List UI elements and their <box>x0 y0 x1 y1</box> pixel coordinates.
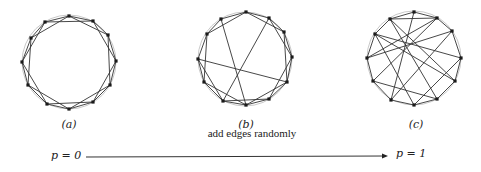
graph-edge <box>93 61 116 102</box>
panel-label-a: (a) <box>61 118 76 131</box>
graph-node <box>282 30 285 33</box>
graph-edge <box>45 21 93 22</box>
probability-end-label: p = 1 <box>396 147 426 160</box>
graph-node <box>244 103 247 106</box>
graph-panel-c <box>365 10 462 106</box>
graph-node <box>67 14 70 17</box>
graph-edge <box>93 21 116 61</box>
graph-node <box>371 79 374 82</box>
graph-node <box>26 83 29 86</box>
graph-edge <box>22 62 28 85</box>
graph-node <box>290 55 293 58</box>
guide-circle <box>367 11 461 105</box>
graph-node <box>67 107 70 110</box>
graph-edge <box>391 100 414 105</box>
graph-edge <box>108 35 110 85</box>
graph-node <box>388 17 391 20</box>
graph-panel-b <box>196 10 293 106</box>
panel-label-c: (c) <box>409 118 424 131</box>
graph-node <box>29 36 32 39</box>
graph-node <box>91 19 94 22</box>
graph-edge <box>198 59 223 101</box>
graph-edge <box>246 12 269 18</box>
graph-node <box>435 97 438 100</box>
graph-node <box>412 10 415 13</box>
graph-node <box>219 17 222 20</box>
graph-node <box>267 16 270 19</box>
graph-panel-a <box>20 14 117 110</box>
graph-node <box>221 99 224 102</box>
graph-edge <box>367 58 373 81</box>
graph-node <box>412 103 415 106</box>
graph-edge <box>22 62 47 104</box>
graph-edge <box>22 22 45 62</box>
graph-node <box>435 16 438 19</box>
graph-edge <box>390 19 455 81</box>
graph-edge <box>375 19 390 34</box>
graph-node <box>373 32 376 35</box>
graph-node <box>285 80 288 83</box>
graph-edge <box>452 31 461 58</box>
graph-edge <box>390 18 437 19</box>
graph-edge <box>246 82 287 105</box>
graph-node <box>20 60 23 63</box>
graph-node <box>244 10 247 13</box>
graph-node <box>450 29 453 32</box>
graph-node <box>91 100 94 103</box>
graph-edge <box>69 85 110 109</box>
graph-edge <box>246 12 284 32</box>
graph-node <box>106 33 109 36</box>
graph-node <box>453 79 456 82</box>
probability-start-label: p = 0 <box>51 149 81 162</box>
probability-arrow <box>86 154 388 159</box>
graph-node <box>365 56 368 59</box>
graph-node <box>267 97 270 100</box>
arrow-line <box>86 156 384 157</box>
graph-edge <box>221 19 246 105</box>
graph-node <box>114 59 117 62</box>
graph-edge <box>207 12 246 34</box>
graph-node <box>108 83 111 86</box>
graph-node <box>196 57 199 60</box>
arrow-head-icon <box>382 154 388 159</box>
graph-edge <box>31 22 45 38</box>
graph-node <box>205 32 208 35</box>
graph-node <box>45 102 48 105</box>
arrow-caption: add edges randomly <box>208 127 297 139</box>
graph-edge <box>198 59 204 82</box>
graph-node <box>389 98 392 101</box>
graph-edge <box>269 18 292 57</box>
graph-edge <box>207 19 221 34</box>
graph-edge <box>437 81 455 99</box>
graph-edge <box>93 21 108 35</box>
graph-edge <box>198 59 287 82</box>
graph-node <box>202 80 205 83</box>
graph-edge <box>47 104 69 109</box>
graph-node <box>459 56 462 59</box>
graph-node <box>43 20 46 23</box>
graph-edge <box>437 18 452 31</box>
graph-edge <box>223 18 269 101</box>
